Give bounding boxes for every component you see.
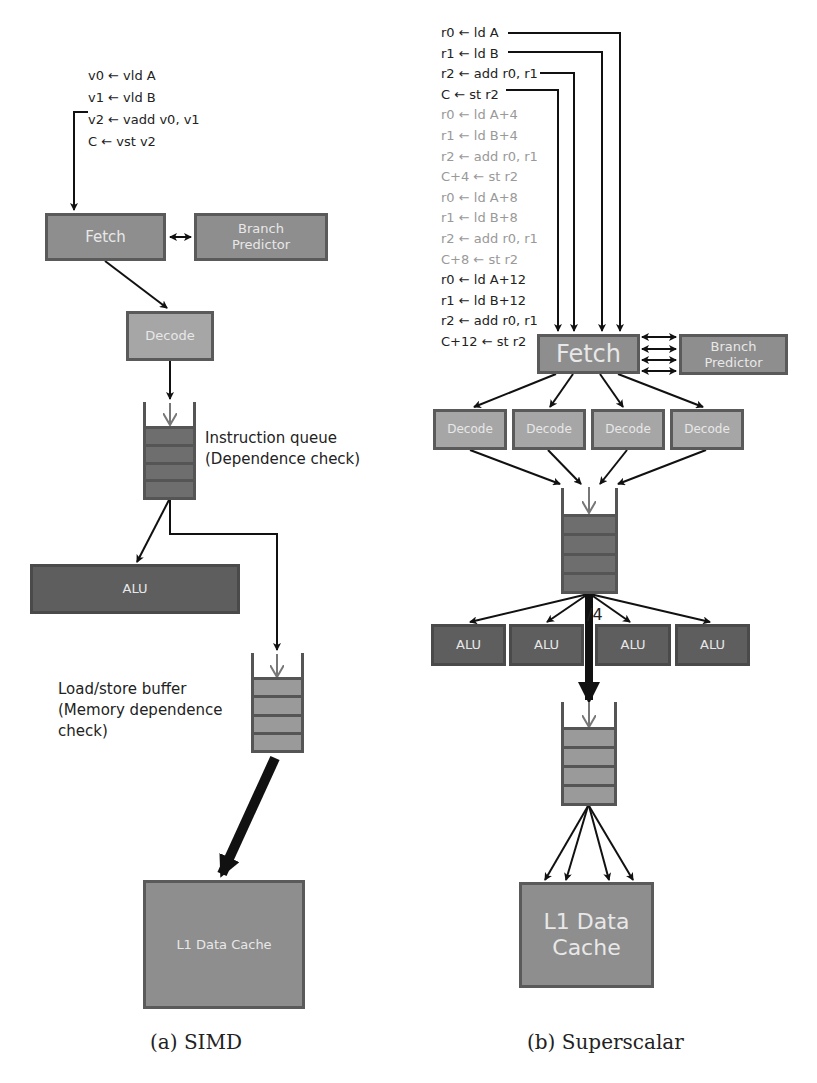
code-line: r2 ← add r0, r1 <box>441 311 538 332</box>
simd-alu: ALU <box>30 564 240 614</box>
superscalar-caption: (b) Superscalar <box>527 1030 684 1054</box>
simd-branch-predictor: Branch Predictor <box>194 213 328 261</box>
simd-caption: (a) SIMD <box>150 1030 242 1054</box>
code-line: r2 ← add r0, r1 <box>441 147 538 168</box>
decode-unit: Decode <box>512 409 586 450</box>
superscalar-instruction-queue <box>561 488 618 594</box>
issue-width-label: /4 <box>587 604 603 625</box>
code-line: C+12 ← st r2 <box>441 332 538 353</box>
alu-unit: ALU <box>675 624 750 666</box>
simd-lsq-label: Load/store buffer (Memory dependence che… <box>58 679 222 742</box>
code-line: v1 ← vld B <box>88 87 200 109</box>
simd-decode-unit: Decode <box>126 311 214 361</box>
decode-unit: Decode <box>670 409 744 450</box>
simd-fetch-unit: Fetch <box>45 213 166 261</box>
decode-unit: Decode <box>433 409 507 450</box>
code-line: r1 ← ld B+12 <box>441 291 538 312</box>
code-line: r0 ← ld A+8 <box>441 188 538 209</box>
code-line: r0 ← ld A <box>441 23 538 44</box>
code-line: v2 ← vadd v0, v1 <box>88 109 200 131</box>
superscalar-fetch-unit: Fetch <box>537 334 640 374</box>
code-line: C+4 ← st r2 <box>441 167 538 188</box>
code-line: C+8 ← st r2 <box>441 250 538 271</box>
superscalar-code-listing: r0 ← ld A r1 ← ld B r2 ← add r0, r1 C ← … <box>441 23 538 353</box>
simd-l1-data-cache: L1 Data Cache <box>143 880 305 1009</box>
simd-load-store-buffer <box>251 653 304 753</box>
code-line: r0 ← ld A+12 <box>441 270 538 291</box>
superscalar-l1-data-cache: L1 Data Cache <box>519 882 654 988</box>
superscalar-load-store-buffer <box>561 702 617 806</box>
simd-instruction-queue <box>143 402 196 500</box>
superscalar-branch-predictor: Branch Predictor <box>679 334 788 375</box>
code-line: r2 ← add r0, r1 <box>441 64 538 85</box>
code-line: r1 ← ld B <box>441 44 538 65</box>
simd-iq-label: Instruction queue (Dependence check) <box>205 428 360 470</box>
code-line: r1 ← ld B+4 <box>441 126 538 147</box>
code-line: C ← st r2 <box>441 85 538 106</box>
alu-unit: ALU <box>595 624 671 666</box>
alu-unit: ALU <box>509 624 584 666</box>
code-line: r2 ← add r0, r1 <box>441 229 538 250</box>
code-line: r1 ← ld B+8 <box>441 208 538 229</box>
code-line: C ← vst v2 <box>88 131 200 153</box>
code-line: r0 ← ld A+4 <box>441 105 538 126</box>
code-line: v0 ← vld A <box>88 65 200 87</box>
alu-unit: ALU <box>431 624 506 666</box>
simd-code-listing: v0 ← vld A v1 ← vld B v2 ← vadd v0, v1 C… <box>88 65 200 153</box>
wires <box>0 0 817 1083</box>
decode-unit: Decode <box>591 409 665 450</box>
